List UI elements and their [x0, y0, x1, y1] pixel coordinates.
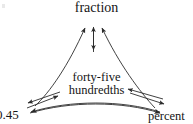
- node-label-percent: percent: [148, 110, 185, 123]
- node-label-center: forty-five hundredths: [0, 71, 193, 97]
- diagram-arrows: [0, 0, 193, 124]
- diagram-canvas: fraction forty-five hundredths 0.45 perc…: [0, 0, 193, 124]
- arrow-decimal-to-percent-arc: [30, 104, 160, 113]
- node-label-decimal: 0.45: [0, 108, 19, 121]
- node-label-fraction: fraction: [0, 1, 193, 15]
- node-label-center-line1: forty-five: [0, 71, 193, 84]
- node-label-center-line2: hundredths: [0, 84, 193, 97]
